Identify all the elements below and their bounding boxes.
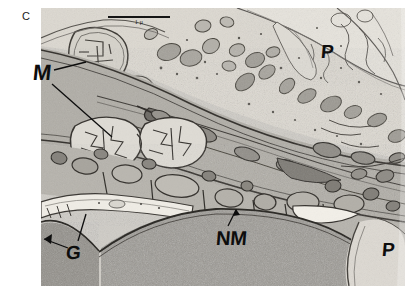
- scale-bar-line: [108, 16, 170, 18]
- figure-root: C: [0, 0, 418, 308]
- annotation-label-p-upper: P: [320, 42, 334, 61]
- annotation-label-nm: NM: [215, 228, 248, 248]
- scale-bar-label: 1 μ: [108, 19, 170, 25]
- scale-bar: 1 μ: [108, 16, 170, 25]
- annotation-label-g: G: [65, 243, 81, 262]
- annotation-label-p-lower: P: [381, 240, 395, 259]
- panel-letter: C: [22, 10, 30, 22]
- annotation-label-m: M: [32, 62, 53, 84]
